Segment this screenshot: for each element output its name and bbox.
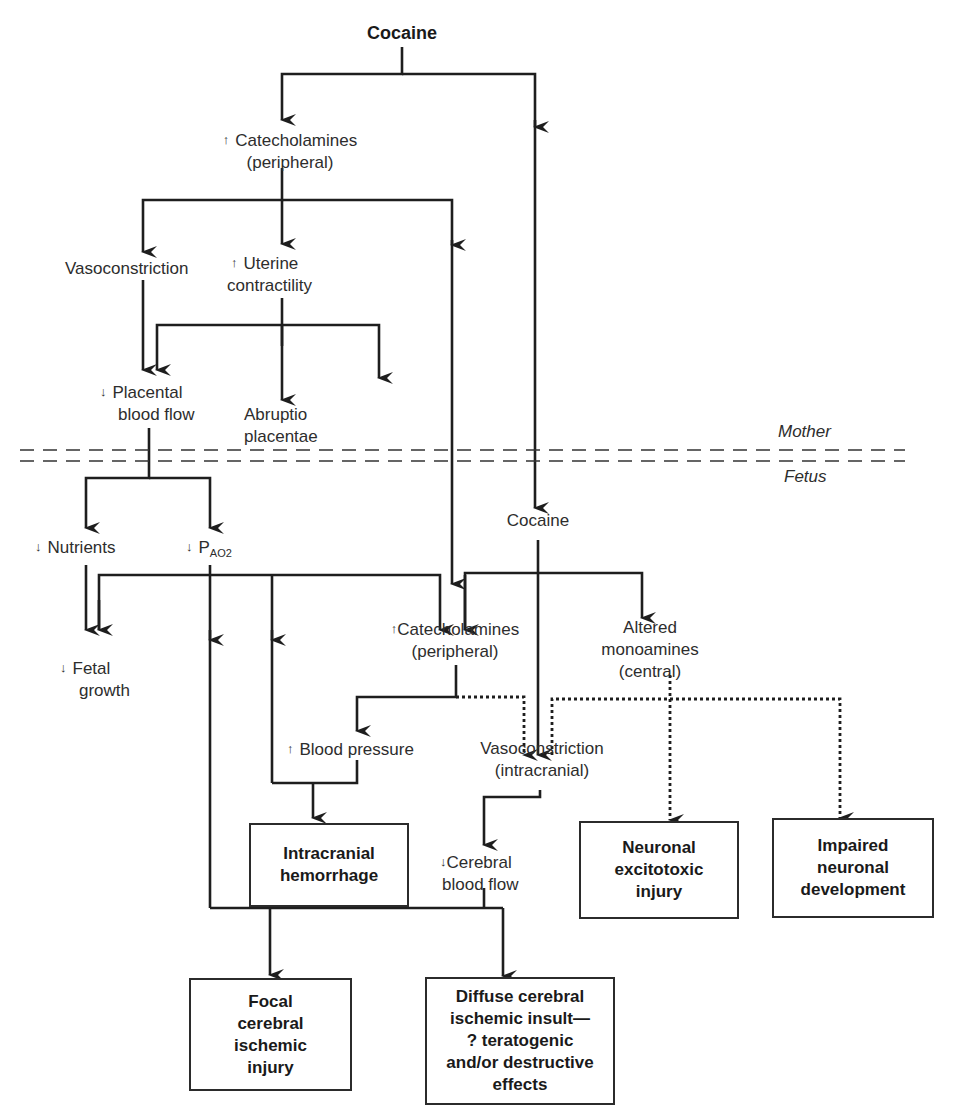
connector-lines: [0, 0, 957, 1115]
intracranial-sublabel: (intracranial): [462, 760, 622, 782]
fetal-label: Fetal: [73, 659, 111, 678]
node-abruptio-placentae: Abruptio placentae: [244, 404, 318, 448]
down-arrow-icon: ↓: [100, 384, 107, 399]
node-maternal-catecholamines: ↑Catecholamines (peripheral): [200, 129, 380, 174]
node-uterine-contractility: ↑Uterine contractility: [231, 252, 312, 297]
node-fetal-cocaine: Cocaine: [488, 510, 588, 532]
up-arrow-icon: ↑: [223, 132, 230, 147]
fetal-catecholamines-label: Catecholamines: [397, 620, 519, 639]
node-maternal-vasoconstriction: Vasoconstriction: [65, 258, 188, 280]
altered-label: Altered: [585, 617, 715, 639]
node-fetal-growth: ↓Fetal growth: [60, 657, 130, 702]
vasoconstriction-label: Vasoconstriction: [65, 259, 188, 278]
cerebral-blood-flow-sublabel: blood flow: [442, 874, 519, 896]
down-arrow-icon: ↓: [186, 539, 193, 554]
pao2-subscript: AO2: [210, 547, 232, 559]
growth-label: growth: [79, 680, 130, 702]
node-placental-blood-flow: ↓Placental blood flow: [100, 381, 195, 426]
placental-label: Placental: [113, 383, 183, 402]
node-cerebral-blood-flow: ↓Cerebral blood flow: [440, 851, 519, 896]
nutrients-label: Nutrients: [48, 538, 116, 557]
cocaine-label: Cocaine: [367, 23, 437, 43]
outcome-intracranial-hemorrhage: Intracranial hemorrhage: [249, 823, 409, 907]
up-arrow-icon: ↑: [287, 741, 294, 756]
contractility-label: contractility: [227, 275, 312, 297]
node-altered-monoamines: Altered monoamines (central): [585, 617, 715, 683]
mother-label: Mother: [778, 421, 831, 443]
blood-pressure-label: Blood pressure: [300, 740, 414, 759]
uterine-label: Uterine: [244, 254, 299, 273]
outcome-neuronal-excitotoxic-injury: Neuronal excitotoxic injury: [579, 821, 739, 919]
fetal-cocaine-label: Cocaine: [507, 511, 569, 530]
pao2-label: P: [199, 538, 210, 557]
outcome-impaired-neuronal-development: Impaired neuronal development: [772, 818, 934, 918]
central-label: (central): [585, 661, 715, 683]
node-intracranial-vasoconstriction: Vasoconstriction (intracranial): [462, 738, 622, 782]
node-nutrients: ↓Nutrients: [35, 536, 116, 559]
blood-flow-label: blood flow: [118, 404, 195, 426]
placentae-label: placentae: [244, 426, 318, 448]
node-blood-pressure: ↑Blood pressure: [287, 738, 414, 761]
outcome-focal-cerebral-ischemic-injury: Focal cerebral ischemic injury: [189, 978, 352, 1091]
up-arrow-icon: ↑: [231, 255, 238, 270]
catecholamines-sublabel: (peripheral): [200, 152, 380, 174]
down-arrow-icon: ↓: [60, 660, 67, 675]
node-fetal-catecholamines: ↑Catecholamines (peripheral): [360, 618, 550, 663]
down-arrow-icon: ↓: [35, 539, 42, 554]
outcome-diffuse-cerebral-ischemic-insult: Diffuse cerebral ischemic insult— ? tera…: [425, 977, 615, 1105]
node-pao2: ↓PAO2: [186, 536, 232, 564]
vasoconstriction-intracranial-label: Vasoconstriction: [462, 738, 622, 760]
cerebral-label: Cerebral: [447, 853, 512, 872]
node-cocaine-source: Cocaine: [352, 22, 452, 44]
abruptio-label: Abruptio: [244, 404, 318, 426]
cocaine-effects-flowchart: Cocaine ↑Catecholamines (peripheral) Vas…: [0, 0, 957, 1115]
monoamines-label: monoamines: [585, 639, 715, 661]
fetal-catecholamines-sublabel: (peripheral): [360, 641, 550, 663]
fetus-label: Fetus: [784, 466, 827, 488]
catecholamines-label: Catecholamines: [235, 131, 357, 150]
